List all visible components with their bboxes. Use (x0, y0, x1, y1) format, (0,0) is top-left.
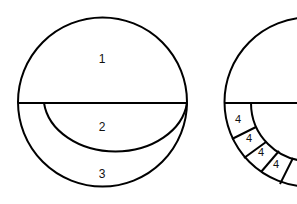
ring-divider-1 (232, 127, 256, 139)
region-2-label: 2 (99, 120, 106, 134)
ring-divider-4 (280, 158, 293, 184)
ring-cell-1-label: 4 (235, 113, 241, 125)
left-inner-arc (44, 103, 187, 152)
diagram-canvas: 1 2 3 4 4 4 4 (0, 0, 297, 204)
ring-cell-4-label: 4 (273, 158, 279, 170)
right-figure: 4 4 4 4 (224, 18, 297, 187)
left-figure: 1 2 3 (18, 18, 187, 187)
region-1-label: 1 (99, 52, 106, 66)
region-3-label: 3 (99, 167, 106, 181)
ring-cell-2-label: 4 (246, 132, 252, 144)
ring-cell-3-label: 4 (258, 146, 264, 158)
